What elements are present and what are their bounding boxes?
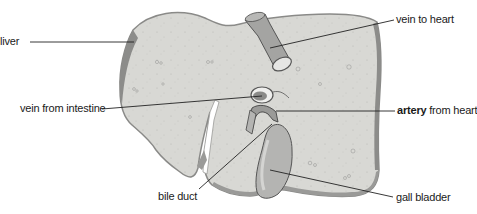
label-artery-from-heart: artery from heart — [397, 104, 477, 117]
label-liver: liver — [0, 35, 19, 48]
label-vein-from-intestine: vein from intestine — [20, 102, 105, 115]
label-artery-bold: artery — [397, 104, 426, 116]
label-gall-bladder: gall bladder — [396, 191, 450, 204]
label-vein-to-heart: vein to heart — [396, 13, 454, 26]
label-bile-duct: bile duct — [158, 190, 197, 203]
label-artery-rest: from heart — [426, 104, 477, 116]
